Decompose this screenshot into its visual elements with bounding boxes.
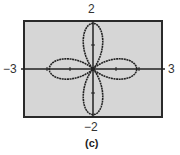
y-max-label: 2 <box>88 3 95 15</box>
figure-caption: (c) <box>85 137 98 149</box>
origin-point <box>91 67 95 71</box>
x-max-label: 3 <box>168 63 175 75</box>
x-min-label: −3 <box>3 63 17 75</box>
y-min-label: −2 <box>84 121 98 133</box>
